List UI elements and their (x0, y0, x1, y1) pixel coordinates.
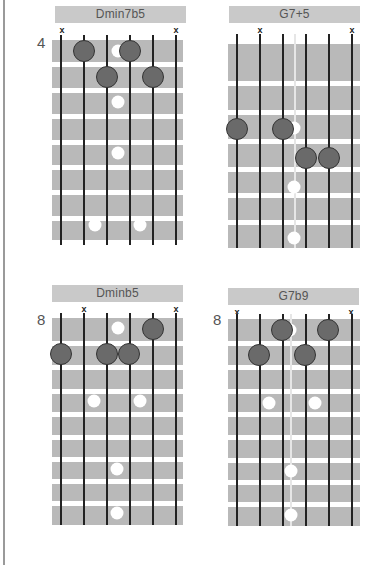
fret-line (52, 240, 183, 245)
fret-line (52, 216, 183, 221)
position-marker-dot (89, 219, 102, 232)
finger-dot (73, 40, 95, 62)
string-4 (305, 34, 307, 248)
fret-line (52, 341, 183, 346)
fret-line (228, 502, 360, 507)
position-marker-dot (112, 96, 125, 109)
fretboard (228, 314, 360, 526)
chord-title: Dminb5 (52, 285, 183, 302)
start-fret-number: 8 (213, 312, 221, 327)
finger-dot (317, 319, 339, 341)
position-marker-dot (134, 219, 147, 232)
muted-string-marker: x (173, 26, 178, 35)
center-guide-line (290, 314, 292, 526)
fret-line (228, 365, 360, 370)
position-marker-dot (111, 463, 124, 476)
string-1 (236, 34, 238, 248)
fret-line (52, 412, 183, 417)
finger-dot (119, 40, 141, 62)
position-marker-dot (112, 322, 125, 335)
position-marker-dot (111, 507, 124, 520)
fret-line (52, 389, 183, 394)
string-3 (282, 34, 284, 248)
fretboard (228, 34, 360, 248)
string-1 (236, 314, 238, 526)
fret-line (52, 313, 183, 318)
fret-line (228, 314, 360, 319)
string-6 (351, 34, 353, 248)
chord-title: Dmin7b5 (55, 6, 186, 23)
muted-string-marker: x (59, 26, 64, 35)
fret-line (52, 190, 183, 195)
fretboard (52, 313, 183, 525)
finger-dot (248, 344, 270, 366)
string-6 (175, 313, 177, 525)
string-1 (60, 35, 62, 245)
position-marker-dot (285, 509, 298, 522)
finger-dot (272, 118, 294, 140)
fret-line (228, 480, 360, 485)
position-marker-dot (112, 147, 125, 160)
finger-dot (96, 66, 118, 88)
chord-title: G7+5 (229, 6, 360, 23)
string-5 (328, 34, 330, 248)
fret-line (228, 389, 360, 394)
fret-line (228, 341, 360, 346)
fret-line (52, 114, 183, 119)
chord-title: G7b9 (228, 288, 359, 305)
fret-line (52, 365, 183, 370)
string-6 (351, 314, 353, 526)
center-guide-line (294, 34, 296, 248)
position-marker-dot (288, 232, 301, 245)
string-5 (328, 314, 330, 526)
fret-line (52, 140, 183, 145)
position-marker-dot (134, 395, 147, 408)
fret-line (228, 412, 360, 417)
finger-dot (118, 343, 140, 365)
string-6 (175, 35, 177, 245)
string-2 (259, 34, 261, 248)
fret-line (52, 435, 183, 440)
fret-line (228, 458, 360, 463)
fret-line (52, 165, 183, 170)
finger-dot (294, 344, 316, 366)
string-5 (152, 313, 154, 525)
string-2 (83, 35, 85, 245)
finger-dot (142, 318, 164, 340)
position-marker-dot (288, 181, 301, 194)
position-marker-dot (285, 465, 298, 478)
fret-line (52, 457, 183, 462)
position-marker-dot (263, 397, 276, 410)
fret-line (52, 35, 183, 40)
string-3 (282, 314, 284, 526)
finger-dot (271, 319, 293, 341)
finger-dot (295, 147, 317, 169)
fret-line (52, 501, 183, 506)
finger-dot (142, 66, 164, 88)
position-marker-dot (88, 395, 101, 408)
start-fret-number: 8 (37, 312, 45, 327)
fret-line (52, 62, 183, 67)
finger-dot (318, 147, 340, 169)
start-fret-number: 4 (37, 35, 45, 50)
position-marker-dot (309, 397, 322, 410)
fret-line (228, 435, 360, 440)
fret-line (52, 88, 183, 93)
string-4 (129, 35, 131, 245)
fretboard (52, 35, 183, 245)
fret-line (52, 479, 183, 484)
finger-dot (96, 343, 118, 365)
string-2 (83, 313, 85, 525)
page-binding-edge (3, 0, 5, 565)
finger-dot (226, 118, 248, 140)
finger-dot (50, 343, 72, 365)
